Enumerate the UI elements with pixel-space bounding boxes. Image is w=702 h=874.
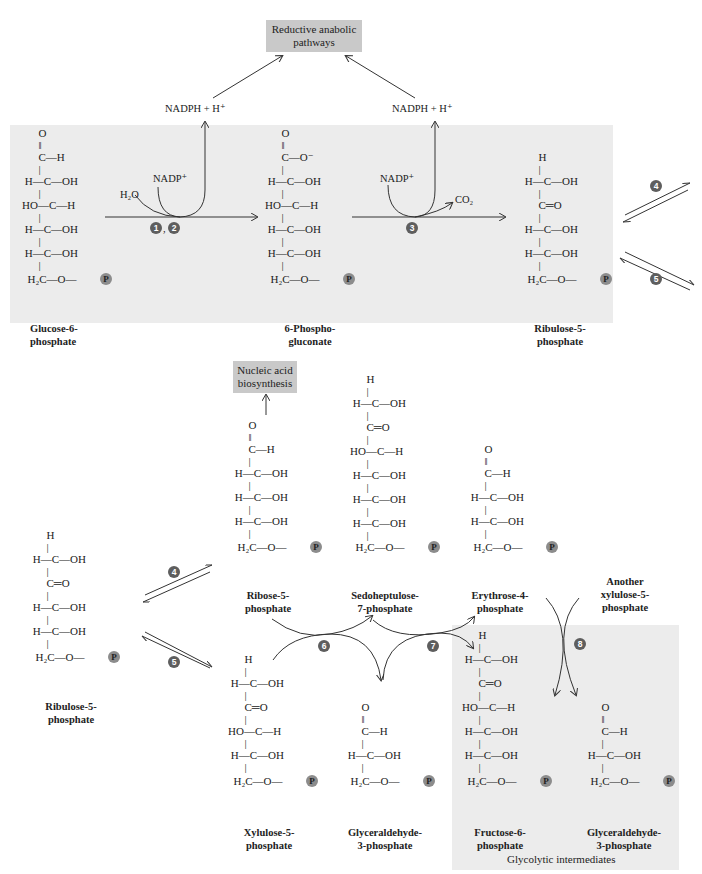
label-glyceraldehyde-3-phosphate-right: Glyceraldehyde- 3-phosphate: [578, 826, 670, 852]
label-glyceraldehyde-3-phosphate-mid: Glyceraldehyde- 3-phosphate: [340, 826, 430, 852]
label-6-phosphogluconate: 6-Phospho- gluconate: [270, 322, 350, 348]
phosphate-icon: P: [306, 775, 318, 787]
phosphate-icon: P: [428, 541, 440, 553]
step-8-badge: 8: [574, 638, 586, 650]
label-erythrose-4-phosphate: Erythrose-4- phosphate: [464, 589, 536, 615]
label-fructose-6-phosphate: Fructose-6- phosphate: [465, 826, 535, 852]
phosphate-icon: P: [343, 273, 355, 285]
nadp-label-1: NADP⁺: [153, 172, 187, 185]
co2-label: CO₂: [455, 193, 473, 206]
phosphate-icon: P: [546, 541, 558, 553]
label-xylulose-5-phosphate: Xylulose-5- phosphate: [234, 826, 304, 852]
step-7-badge: 7: [427, 640, 439, 652]
phosphate-icon: P: [540, 775, 552, 787]
step-4-badge-bottom: 4: [168, 566, 180, 578]
step-6-badge: 6: [318, 640, 330, 652]
label-glucose-6-phosphate: Glucose-6- phosphate: [30, 322, 78, 348]
phosphate-icon: P: [100, 273, 112, 285]
step-5-badge-bottom: 5: [168, 656, 180, 668]
label-ribulose-5-phosphate-bottom: Ribulose-5- phosphate: [36, 700, 106, 726]
step-3-badge: 3: [406, 222, 418, 234]
step-5-badge-top: 5: [650, 273, 662, 285]
label-another-xylulose-5-phosphate: Another xylulose-5- phosphate: [590, 575, 660, 614]
step-4-badge-top: 4: [650, 180, 662, 192]
h2o-label: H₂O: [120, 188, 139, 201]
step-2-badge: 2: [168, 222, 180, 234]
label-ribulose-5-phosphate-top: Ribulose-5- phosphate: [525, 322, 595, 348]
nadp-label-2: NADP⁺: [380, 172, 414, 185]
phosphate-icon: P: [600, 273, 612, 285]
nadph-label-left: NADPH + H⁺: [165, 102, 225, 115]
phosphate-icon: P: [310, 541, 322, 553]
label-ribose-5-phosphate: Ribose-5- phosphate: [236, 589, 300, 615]
phosphate-icon: P: [423, 775, 435, 787]
step-1-badge: 1: [150, 222, 162, 234]
phosphate-icon: P: [108, 651, 120, 663]
phosphate-icon: P: [663, 775, 675, 787]
nadph-label-right: NADPH + H⁺: [392, 102, 452, 115]
step-comma: ,: [163, 222, 166, 235]
label-sedoheptulose-7-phosphate: Sedoheptulose- 7-phosphate: [340, 589, 430, 615]
